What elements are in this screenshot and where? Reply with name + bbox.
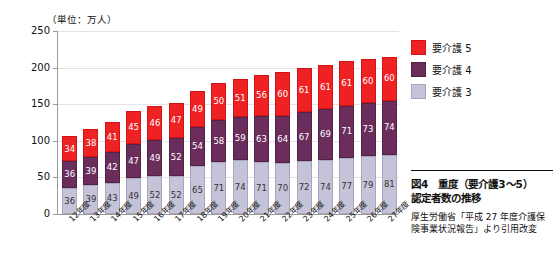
- y-axis-tick-mark: [53, 214, 57, 215]
- caption-source: 厚生労働省「平成 27 年度介護保険事業状況報告」より引用改変: [411, 211, 553, 236]
- y-axis-tick-label: 0: [22, 208, 50, 219]
- bar-column[interactable]: 607481: [382, 57, 397, 214]
- legend-item[interactable]: 要介護 5: [411, 40, 472, 55]
- bar-segment-要介護5: 61: [318, 65, 333, 110]
- legend-label: 要介護 3: [432, 84, 472, 99]
- bar-segment-要介護5: 51: [233, 79, 248, 116]
- bar-segment-要介護4: 58: [211, 120, 226, 162]
- bar-segment-要介護5: 38: [83, 129, 98, 157]
- y-axis-tick-label: 250: [22, 25, 50, 36]
- bar-segment-要介護5: 60: [361, 59, 376, 103]
- bar-segment-要介護5: 47: [169, 103, 184, 137]
- bar-segment-要介護5: 41: [105, 122, 120, 152]
- y-axis-tick-label: 150: [22, 98, 50, 109]
- y-axis-tick-mark: [53, 31, 57, 32]
- bar-column[interactable]: 616772: [297, 68, 312, 214]
- bar-segment-要介護4: 42: [105, 152, 120, 183]
- bar-segment-要介護5: 45: [126, 111, 141, 144]
- bar-column[interactable]: 495465: [190, 91, 205, 214]
- legend-label: 要介護 5: [432, 40, 472, 55]
- bar-segment-要介護4: 47: [126, 144, 141, 178]
- y-axis-tick-label: 100: [22, 135, 50, 146]
- bar-segment-要介護5: 56: [254, 75, 269, 116]
- legend-swatch-icon: [411, 62, 426, 77]
- y-axis-tick-mark: [53, 104, 57, 105]
- bar-segment-要介護5: 49: [190, 91, 205, 127]
- bar-column[interactable]: 515974: [233, 79, 248, 214]
- legend-swatch-icon: [411, 40, 426, 55]
- bar-column[interactable]: 617177: [339, 61, 354, 214]
- bar-segment-要介護4: 71: [339, 106, 354, 158]
- bar-column[interactable]: 607379: [361, 59, 376, 214]
- plot-area: 3436363839394142434547494649524752524954…: [57, 31, 398, 215]
- bar-segment-要介護5: 46: [147, 106, 162, 140]
- bar-column[interactable]: 616974: [318, 65, 333, 214]
- bar-segment-要介護5: 61: [339, 61, 354, 106]
- bar-column[interactable]: 505871: [211, 83, 226, 214]
- y-axis-tick-mark: [53, 177, 57, 178]
- y-axis-tick-mark: [53, 68, 57, 69]
- bar-segment-要介護5: 61: [297, 68, 312, 113]
- bar-segment-要介護5: 60: [275, 72, 290, 116]
- bar-segment-要介護5: 34: [62, 136, 77, 161]
- figure-caption: 図4 重度（要介護3〜5） 認定者数の推移 厚生労働省「平成 27 年度介護保険…: [411, 170, 553, 236]
- bar-column[interactable]: 343636: [62, 136, 77, 214]
- x-axis-tick-labels: 12年度13年度14年度15年度16年度17年度18年度19年度20年度21年度…: [57, 216, 398, 262]
- caption-title-line2: 認定者数の推移: [411, 192, 481, 204]
- figure-root: （単位：万人） 34363638393941424345474946495247…: [0, 0, 560, 265]
- caption-title-line1: 図4 重度（要介護3〜5）: [411, 178, 533, 190]
- bar-segment-要介護4: 54: [190, 127, 205, 167]
- y-axis-tick-mark: [53, 141, 57, 142]
- bar-segment-要介護4: 73: [361, 103, 376, 156]
- bar-segment-要介護4: 49: [147, 140, 162, 176]
- bar-series-group: 3436363839394142434547494649524752524954…: [58, 31, 399, 214]
- bar-segment-要介護4: 63: [254, 116, 269, 162]
- bar-segment-要介護4: 36: [62, 161, 77, 187]
- bar-segment-要介護4: 64: [275, 116, 290, 163]
- legend-label: 要介護 4: [432, 62, 472, 77]
- legend-item[interactable]: 要介護 4: [411, 62, 472, 77]
- bar-column[interactable]: 606470: [275, 72, 290, 214]
- y-axis-tick-label: 200: [22, 62, 50, 73]
- y-axis-unit-label: （単位：万人）: [47, 12, 117, 26]
- bar-segment-要介護5: 50: [211, 83, 226, 120]
- y-axis-tick-label: 50: [22, 171, 50, 182]
- caption-title: 図4 重度（要介護3〜5） 認定者数の推移: [411, 178, 553, 206]
- bar-segment-要介護4: 74: [382, 101, 397, 155]
- bar-segment-要介護4: 69: [318, 109, 333, 160]
- legend-swatch-icon: [411, 84, 426, 99]
- bar-segment-要介護4: 39: [83, 157, 98, 186]
- chart-legend: 要介護 5要介護 4要介護 3: [411, 40, 472, 106]
- legend-item[interactable]: 要介護 3: [411, 84, 472, 99]
- bar-segment-要介護4: 52: [169, 138, 184, 176]
- bar-column[interactable]: 475252: [169, 103, 184, 214]
- bar-segment-要介護4: 67: [297, 112, 312, 161]
- bar-column[interactable]: 566371: [254, 75, 269, 214]
- bar-segment-要介護5: 60: [382, 57, 397, 101]
- bar-segment-要介護4: 59: [233, 117, 248, 160]
